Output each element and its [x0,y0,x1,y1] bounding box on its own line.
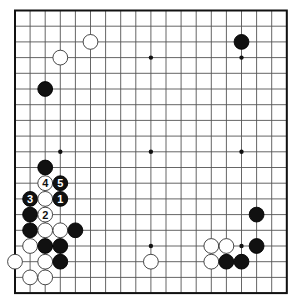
black-stone[interactable] [249,207,264,222]
white-stone-icon [53,50,68,65]
black-stone[interactable] [53,239,68,254]
white-stone[interactable] [38,270,53,285]
black-stone[interactable] [38,160,53,175]
white-stone[interactable] [83,35,98,50]
white-stone-icon [23,270,38,285]
black-stone-icon [38,239,53,254]
white-stone-icon [38,192,53,207]
black-stone[interactable] [38,239,53,254]
black-stone-icon [234,254,249,269]
white-stone-icon [83,35,98,50]
white-stone-icon [204,239,219,254]
move-number-label: 4 [42,177,49,189]
star-point-icon [58,150,62,154]
white-stone[interactable] [204,254,219,269]
white-stone-icon [38,270,53,285]
white-stone-icon [204,254,219,269]
star-point-icon [149,244,153,248]
move-number-label: 3 [27,193,33,205]
go-board[interactable]: 45312 [0,0,300,303]
move-number-label: 2 [42,209,48,221]
black-stone-icon [249,207,264,222]
black-stone[interactable] [53,254,68,269]
white-stone-icon [38,254,53,269]
star-point-icon [149,55,153,59]
black-stone-icon [234,35,249,50]
white-stone[interactable] [204,239,219,254]
black-stone-move-3[interactable]: 3 [23,192,38,207]
star-point-icon [239,244,243,248]
white-stone[interactable] [8,254,23,269]
black-stone-icon [38,82,53,97]
white-stone[interactable] [38,254,53,269]
white-stone[interactable] [53,50,68,65]
black-stone[interactable] [23,223,38,238]
white-stone[interactable] [53,223,68,238]
move-number-label: 1 [57,193,63,205]
black-stone-icon [53,254,68,269]
black-stone[interactable] [38,82,53,97]
white-stone-icon [8,254,23,269]
black-stone[interactable] [23,207,38,222]
black-stone[interactable] [234,254,249,269]
white-stone-icon [144,254,159,269]
black-stone-icon [23,223,38,238]
black-stone[interactable] [249,239,264,254]
black-stone-icon [68,223,83,238]
black-stone[interactable] [68,223,83,238]
black-stone-icon [38,160,53,175]
black-stone-icon [249,239,264,254]
black-stone-move-5[interactable]: 5 [53,176,68,191]
star-point-icon [239,55,243,59]
black-stone-icon [53,239,68,254]
white-stone-icon [53,223,68,238]
white-stone[interactable] [219,239,234,254]
move-number-label: 5 [57,177,63,189]
star-point-icon [239,150,243,154]
white-stone-icon [219,239,234,254]
white-stone[interactable] [144,254,159,269]
white-stone[interactable] [38,223,53,238]
white-stone[interactable] [23,270,38,285]
white-stone-move-4[interactable]: 4 [38,176,53,191]
star-point-icon [149,150,153,154]
black-stone-move-1[interactable]: 1 [53,192,68,207]
white-stone-icon [38,223,53,238]
black-stone[interactable] [219,254,234,269]
black-stone[interactable] [234,35,249,50]
black-stone-icon [23,207,38,222]
white-stone-icon [23,239,38,254]
black-stone-icon [219,254,234,269]
white-stone[interactable] [38,192,53,207]
white-stone[interactable] [23,239,38,254]
white-stone-move-2[interactable]: 2 [38,207,53,222]
